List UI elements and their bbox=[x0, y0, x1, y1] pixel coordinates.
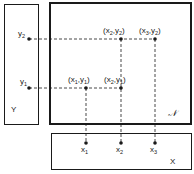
point-y2 bbox=[27, 37, 31, 41]
label-n-box: 𝒩 bbox=[168, 108, 180, 118]
label-x1: x1 bbox=[81, 145, 88, 155]
y-box bbox=[5, 5, 39, 125]
points bbox=[27, 37, 157, 145]
n-box bbox=[50, 3, 191, 124]
point-x2y1 bbox=[119, 86, 123, 90]
point-x1y1 bbox=[84, 86, 88, 90]
label-x1y1: (x1,y1) bbox=[68, 75, 90, 85]
label-x2y2: (x2,y2) bbox=[103, 26, 125, 36]
point-y1 bbox=[27, 86, 31, 90]
point-x2y2 bbox=[119, 37, 123, 41]
product-space-diagram: y2 y1 (x2,y2) (x3,y2) (x1,y1) (x2,y1) x1… bbox=[0, 0, 194, 174]
label-x3y2: (x3,y2) bbox=[139, 26, 161, 36]
projection-lines bbox=[29, 39, 155, 143]
point-x3y2 bbox=[153, 37, 157, 41]
label-x2y1: (x2,y1) bbox=[104, 75, 126, 85]
label-x-box: X bbox=[170, 157, 176, 166]
label-x3: x3 bbox=[150, 145, 157, 155]
label-y1: y1 bbox=[20, 77, 27, 87]
label-y2: y2 bbox=[18, 29, 25, 39]
label-x2: x2 bbox=[116, 145, 123, 155]
label-y-box: Y bbox=[11, 105, 17, 114]
